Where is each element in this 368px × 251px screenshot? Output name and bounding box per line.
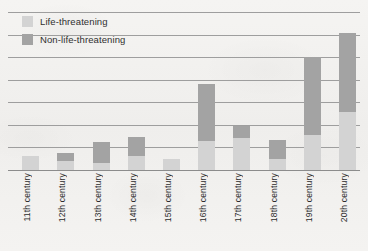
x-axis-tick-label: 18th century: [269, 173, 286, 222]
bar-segment-non-life-threatening: [269, 140, 286, 159]
bar-segment-non-life-threatening: [198, 84, 215, 140]
bar-segment-life-threatening: [93, 163, 110, 170]
legend-item-non-life-threatening[interactable]: Non-life-threatening: [22, 34, 125, 45]
bar-segment-life-threatening: [128, 156, 145, 170]
bar-group[interactable]: [233, 126, 250, 170]
bar-segment-life-threatening: [233, 138, 250, 170]
bar-group[interactable]: [269, 140, 286, 170]
x-axis-tick-label: 20th century: [339, 173, 356, 222]
bar-group[interactable]: [57, 153, 74, 170]
legend-swatch-icon-life-threatening: [22, 16, 33, 27]
bar-segment-non-life-threatening: [339, 33, 356, 112]
bar-group[interactable]: [304, 57, 321, 170]
bar-segment-life-threatening: [57, 161, 74, 170]
legend-item-life-threatening[interactable]: Life-threatening: [22, 16, 125, 27]
bar-group[interactable]: [198, 84, 215, 170]
chart-legend: Life-threatening Non-life-threatening: [22, 16, 125, 45]
x-axis-tick-label: 14th century: [128, 173, 145, 222]
bar-group[interactable]: [93, 142, 110, 170]
bar-segment-non-life-threatening: [128, 137, 145, 156]
x-axis-tick-label: 13th century: [93, 173, 110, 222]
x-axis-tick-labels: 11th century12th century13th century14th…: [8, 173, 360, 251]
x-axis-tick-label: 11th century: [22, 173, 39, 222]
bar-group[interactable]: [128, 137, 145, 170]
stacked-bar-chart: Life-threatening Non-life-threatening 11…: [0, 0, 368, 251]
bar-segment-life-threatening: [269, 159, 286, 170]
bar-segment-life-threatening: [339, 112, 356, 170]
legend-label-life-threatening: Life-threatening: [40, 16, 108, 27]
bar-group[interactable]: [22, 156, 39, 170]
legend-swatch-icon-non-life-threatening: [22, 34, 33, 45]
bar-group[interactable]: [163, 159, 180, 170]
bar-segment-non-life-threatening: [93, 142, 110, 163]
bar-segment-life-threatening: [304, 135, 321, 170]
bar-segment-life-threatening: [198, 141, 215, 170]
bar-group[interactable]: [339, 33, 356, 170]
bar-segment-non-life-threatening: [233, 126, 250, 138]
x-axis-tick-label: 16th century: [198, 173, 215, 222]
legend-label-non-life-threatening: Non-life-threatening: [40, 34, 125, 45]
bar-segment-life-threatening: [163, 159, 180, 170]
x-axis-baseline: [8, 170, 360, 171]
x-axis-tick-label: 17th century: [233, 173, 250, 222]
bar-segment-non-life-threatening: [304, 57, 321, 135]
x-axis-tick-label: 12th century: [57, 173, 74, 222]
bar-segment-non-life-threatening: [57, 153, 74, 161]
x-axis-tick-label: 15th century: [163, 173, 180, 222]
x-axis-tick-label: 19th century: [304, 173, 321, 222]
bar-segment-life-threatening: [22, 156, 39, 170]
